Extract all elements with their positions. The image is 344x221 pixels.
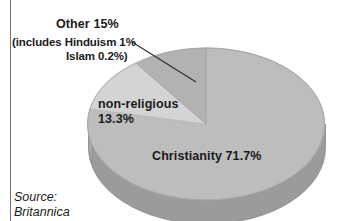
slice-label-non-religious: non-religious (98, 97, 178, 112)
source-label: Source: (14, 190, 57, 205)
pie-chart-figure: Other 15% (includes Hinduism 1% Islam 0.… (0, 0, 344, 221)
slice-note-other-hinduism: (includes Hinduism 1% (12, 36, 136, 49)
slice-label-christianity: Christianity 71.7% (152, 149, 261, 164)
slice-note-other-islam: Islam 0.2%) (66, 50, 128, 63)
slice-label-other: Other 15% (56, 17, 119, 32)
source-value: Britannica (14, 205, 70, 220)
slice-value-non-religious: 13.3% (98, 112, 134, 127)
